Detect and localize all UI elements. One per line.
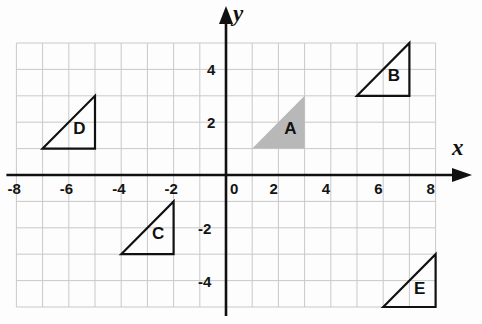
y-tick-label: -2: [198, 221, 211, 236]
x-tick-label: 4: [322, 181, 330, 196]
x-tick-label: 0: [230, 181, 238, 196]
y-tick-label: 2: [207, 115, 215, 130]
x-tick-label: 6: [374, 181, 382, 196]
x-tick-label: -8: [7, 181, 20, 196]
plot-canvas: [0, 0, 482, 324]
y-axis-label: y: [233, 2, 243, 25]
x-tick-label: 2: [269, 181, 277, 196]
x-tick-label: 8: [427, 181, 435, 196]
axis-lines: [6, 6, 472, 316]
y-tick-label: -4: [198, 274, 211, 289]
x-tick-label: -6: [60, 181, 73, 196]
shape-label-b: B: [388, 67, 400, 84]
x-axis-arrowhead: [452, 168, 472, 182]
coordinate-plane-figure: -8-6-4-20246842-2-4 ABCDE x y: [0, 0, 482, 324]
shape-label-e: E: [414, 280, 425, 297]
shape-label-d: D: [73, 120, 85, 137]
shape-label-a: A: [284, 120, 296, 137]
x-axis-label: x: [452, 136, 464, 159]
y-tick-label: 4: [207, 62, 215, 77]
shape-label-c: C: [152, 225, 164, 242]
x-tick-label: -4: [112, 181, 125, 196]
x-tick-label: -2: [165, 181, 178, 196]
y-axis-arrowhead: [219, 6, 233, 24]
